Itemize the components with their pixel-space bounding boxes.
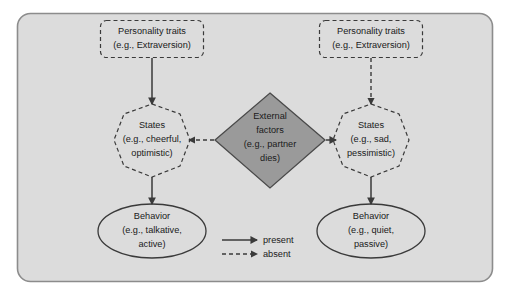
external-factors-line3: (e.g., partner	[244, 139, 297, 149]
states-left-line1: States	[139, 120, 165, 130]
states-left-line2: (e.g., cheerful,	[123, 134, 182, 144]
behavior-right-line3: passive)	[354, 239, 388, 249]
legend-label-present: present	[263, 235, 294, 245]
behavior-left-line3: active)	[138, 239, 165, 249]
traits-left-line2: (e.g., Extraversion)	[113, 40, 191, 50]
external-factors-line1: External	[253, 111, 287, 121]
states-right-line1: States	[358, 120, 384, 130]
personality-states-behavior-diagram: Personality traits (e.g., Extraversion) …	[0, 0, 510, 295]
legend-label-absent: absent	[263, 249, 291, 259]
behavior-left-line1: Behavior	[134, 211, 170, 221]
behavior-right-line2: (e.g., quiet,	[348, 225, 394, 235]
behavior-left-line2: (e.g., talkative,	[122, 225, 182, 235]
external-factors-line4: dies)	[260, 153, 280, 163]
external-factors-line2: factors	[256, 125, 284, 135]
behavior-right-line1: Behavior	[353, 211, 389, 221]
diagram-root: Personality traits (e.g., Extraversion) …	[0, 0, 510, 295]
traits-right-line2: (e.g., Extraversion)	[332, 40, 410, 50]
traits-right-line1: Personality traits	[337, 26, 405, 36]
states-left-line3: optimistic)	[131, 148, 172, 158]
traits-left-line1: Personality traits	[118, 26, 186, 36]
states-right-line3: pessimistic)	[347, 148, 395, 158]
states-right-line2: (e.g., sad,	[351, 134, 392, 144]
